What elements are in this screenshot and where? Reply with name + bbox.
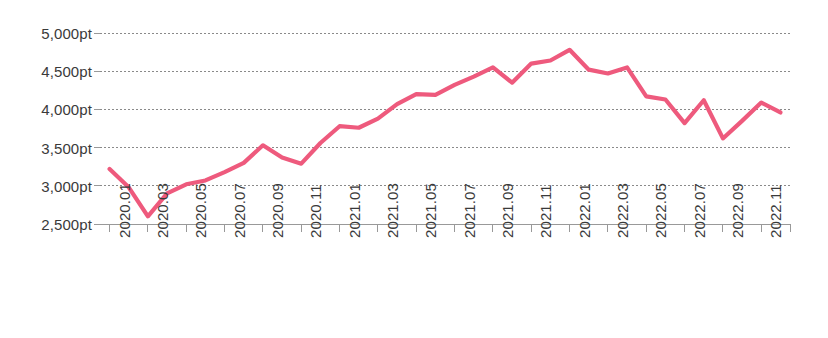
x-tick-label: 2021.05 [422, 183, 439, 238]
x-tick-label: 2021.07 [461, 183, 478, 238]
x-tick-label: 2022.11 [767, 184, 784, 238]
x-tick-label: 2020.03 [154, 183, 171, 238]
x-tick-label: 2022.03 [614, 183, 631, 238]
x-tick-label: 2020.05 [192, 183, 209, 238]
line-chart: 5,000pt4,500pt4,000pt3,500pt3,000pt2,500… [0, 0, 828, 338]
x-tick-label: 2022.07 [691, 183, 708, 238]
x-tick-label: 2021.01 [346, 183, 363, 238]
x-tick-label: 2021.03 [384, 183, 401, 238]
x-tick-label: 2020.11 [307, 184, 324, 238]
x-tick-label: 2022.09 [729, 183, 746, 238]
x-tick-label: 2021.11 [537, 184, 554, 238]
x-tick-label: 2022.05 [652, 183, 669, 238]
x-tick-label: 2020.07 [231, 183, 248, 238]
x-axis: 2020.012020.032020.052020.072020.092020.… [0, 0, 828, 338]
x-tick-label: 2021.09 [499, 183, 516, 238]
x-tick-label: 2020.09 [269, 183, 286, 238]
x-tick-label: 2022.01 [576, 183, 593, 238]
x-tick-label: 2020.01 [116, 183, 133, 238]
